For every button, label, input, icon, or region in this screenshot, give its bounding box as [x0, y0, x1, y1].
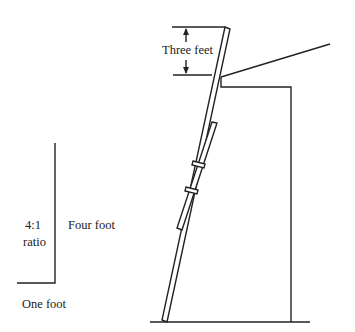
- ratio-label-bottom: ratio: [23, 236, 46, 249]
- ladder-diagram: Three feet 4:1 ratio Four foot One foot: [0, 0, 355, 332]
- ratio-indicator: [17, 143, 55, 283]
- four-foot-label: Four foot: [68, 219, 115, 232]
- roof-line: [221, 44, 330, 77]
- arrow-down-icon: [183, 67, 189, 74]
- three-feet-label: Three feet: [162, 44, 213, 57]
- ratio-label-top: 4:1: [25, 219, 41, 232]
- one-foot-label: One foot: [22, 298, 66, 311]
- arrow-up-icon: [183, 28, 189, 35]
- wall-outline: [221, 77, 291, 322]
- ladder-extension: [177, 122, 217, 230]
